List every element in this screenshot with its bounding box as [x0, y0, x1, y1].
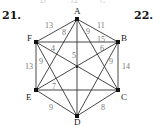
center-point: [76, 66, 78, 68]
vertex-label-d: D: [74, 117, 81, 125]
vertex-label-f: F: [27, 33, 32, 43]
weight-ab: 11: [97, 21, 105, 30]
edge-de: [36, 90, 77, 116]
vertex-e-dot: [34, 88, 38, 92]
vertex-a-dot: [75, 17, 79, 21]
weight-ac: 9: [86, 27, 90, 36]
weight-fd: 9: [39, 57, 43, 66]
weight-be: 6: [100, 44, 104, 53]
weight-fc: 4: [51, 44, 55, 53]
vertex-c-dot: [116, 88, 120, 92]
weight-cd: 8: [101, 103, 105, 112]
weight-de: 9: [49, 103, 53, 112]
weight-ad: 5: [72, 51, 76, 60]
cutoff-label-c: C: [100, 0, 105, 5]
weight-fa: 13: [45, 21, 53, 30]
vertex-label-a: A: [74, 6, 81, 16]
weight-ec: 7: [52, 82, 56, 91]
vertex-label-e: E: [26, 92, 32, 102]
weight-ef: 13: [25, 62, 33, 71]
edge-cd: [77, 90, 118, 116]
cutoff-label-d: D: [40, 0, 46, 5]
weight-fb: 15: [97, 35, 105, 44]
weight-bc: 14: [122, 62, 130, 71]
vertex-f-dot: [34, 40, 38, 44]
vertex-label-b: B: [121, 33, 127, 43]
vertex-label-c: C: [121, 92, 127, 102]
weighted-graph: D 12 C A B C D E F 11 14: [0, 0, 153, 125]
cutoff-label-weight: 12: [70, 0, 78, 5]
weight-bd: 9: [109, 57, 113, 66]
weight-ae: 8: [62, 28, 66, 37]
vertex-b-dot: [116, 40, 120, 44]
